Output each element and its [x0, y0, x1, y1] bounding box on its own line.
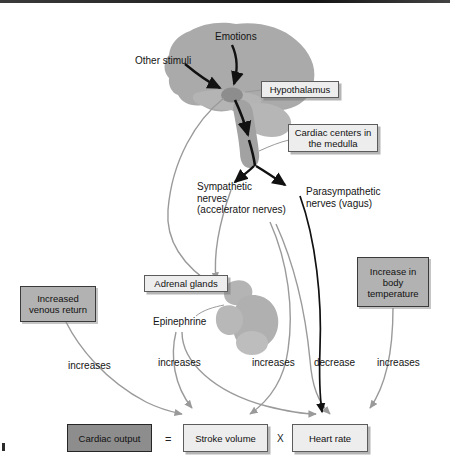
effect-label-epinephrine: increases — [158, 357, 201, 369]
stimulus-label-other-stimuli: Other stimuli — [135, 55, 191, 67]
callout-cardiac-centers: Cardiac centers in the medulla — [288, 124, 378, 152]
vagus-to-heart-rate-path — [300, 196, 322, 412]
hormone-label-epinephrine: Epinephrine — [153, 316, 206, 328]
callout-hypothalamus: Hypothalamus — [261, 81, 339, 98]
factor-box-body-temperature: Increase in body temperature — [357, 257, 429, 307]
nerve-label-parasympathetic: Parasympathetic nerves (vagus) — [306, 186, 380, 209]
factor-box-venous-return: Increased venous return — [20, 286, 96, 322]
sympathetic-arrow — [235, 166, 254, 182]
nerve-label-sympathetic: Sympathetic nerves (accelerator nerves) — [197, 181, 286, 216]
stimulus-label-emotions: Emotions — [215, 31, 257, 43]
cardiac-centers-leader — [259, 140, 289, 151]
equation-equals-sign: = — [165, 433, 171, 445]
equation-cardiac-output: Cardiac output — [67, 424, 152, 452]
callout-adrenal-glands: Adrenal glands — [144, 275, 228, 292]
equation-heart-rate: Heart rate — [292, 424, 368, 452]
page-edge-artifact — [2, 443, 5, 451]
equation-stroke-volume: Stroke volume — [183, 424, 268, 452]
effect-label-sympathetic: increases — [252, 357, 295, 369]
effect-label-temperature: increases — [377, 357, 420, 369]
effect-label-vagus: decrease — [314, 357, 355, 369]
sympathetic-to-heart-rate-path — [276, 224, 330, 414]
effect-label-venous-return: increases — [68, 360, 111, 372]
equation-times-sign: X — [277, 433, 284, 444]
diagram-canvas — [0, 0, 450, 475]
hypothalamus-structure — [221, 88, 243, 103]
epinephrine-to-stroke-volume-path — [173, 332, 192, 408]
